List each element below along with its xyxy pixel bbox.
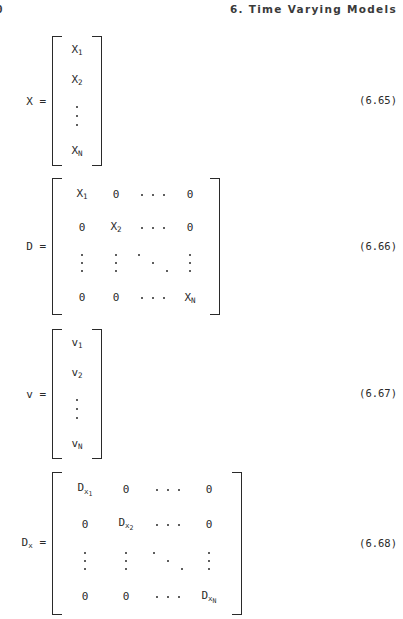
equation-label: X = xyxy=(0,95,52,108)
equation-label: D = xyxy=(0,240,52,253)
vertical-ellipsis-icon xyxy=(125,547,127,576)
vertical-ellipsis-icon xyxy=(115,249,117,278)
matrix-cell: 0 xyxy=(82,519,89,531)
matrix-cell: v1 xyxy=(71,337,82,350)
matrix-cell: XN xyxy=(71,145,82,158)
equation-number: (6.68) xyxy=(359,537,397,549)
horizontal-ellipsis-icon xyxy=(156,489,180,491)
matrix-grid: X1 0 0 0 X2 0 0 0 XN xyxy=(62,178,210,315)
matrix-cell: 0 xyxy=(206,484,213,496)
matrix-cell: 0 xyxy=(82,591,89,603)
bracket-right-icon xyxy=(92,329,102,459)
matrix-cell: XN xyxy=(184,292,195,305)
matrix-cell: 0 xyxy=(187,189,194,201)
horizontal-ellipsis-icon xyxy=(141,194,165,196)
equation-6-67: v = v1 v2 vN (6.67) xyxy=(0,329,403,459)
matrix-column-vector-v: v1 v2 vN xyxy=(52,329,102,459)
matrix-cell: 0 xyxy=(206,519,213,531)
horizontal-ellipsis-icon xyxy=(141,227,165,229)
vertical-ellipsis-icon xyxy=(189,249,191,278)
diagonal-ellipsis-icon xyxy=(136,249,170,278)
matrix-cell: vN xyxy=(71,438,82,451)
vertical-ellipsis-icon xyxy=(81,249,83,278)
bracket-left-icon xyxy=(52,329,62,459)
vertical-ellipsis-icon xyxy=(76,104,78,128)
bracket-left-icon xyxy=(52,36,62,166)
vertical-ellipsis-icon xyxy=(84,547,86,576)
matrix-grid: v1 v2 vN xyxy=(62,329,92,459)
matrix-cell: DxN xyxy=(201,590,216,605)
horizontal-ellipsis-icon xyxy=(141,297,165,299)
matrix-cell: 0 xyxy=(113,292,120,304)
matrix-grid: X1 X2 XN xyxy=(62,36,92,166)
equation-number: (6.66) xyxy=(359,240,397,252)
matrix-diagonal-d: X1 0 0 0 X2 0 0 0 XN xyxy=(52,178,220,315)
equation-number: (6.67) xyxy=(359,387,397,399)
equation-6-66: D = X1 0 0 0 X2 0 0 0 XN (6.66) xyxy=(0,178,403,315)
matrix-cell: 0 xyxy=(79,292,86,304)
matrix-cell: 0 xyxy=(123,591,130,603)
equation-6-65: X = X1 X2 XN (6.65) xyxy=(0,36,403,166)
horizontal-ellipsis-icon xyxy=(156,524,180,526)
matrix-cell: 0 xyxy=(123,484,130,496)
matrix-cell: X2 xyxy=(110,221,121,234)
matrix-cell: Dx2 xyxy=(118,517,133,532)
diagonal-ellipsis-icon xyxy=(151,547,185,576)
matrix-cell: X1 xyxy=(71,44,82,57)
matrix-cell: 0 xyxy=(187,222,194,234)
vertical-ellipsis-icon xyxy=(208,547,210,576)
chapter-title: 6. Time Varying Models xyxy=(230,3,397,15)
page-header: 0 6. Time Varying Models xyxy=(0,0,403,22)
matrix-cell: v2 xyxy=(71,367,82,380)
bracket-right-icon xyxy=(210,178,220,315)
matrix-diagonal-dx: Dx1 0 0 0 Dx2 0 0 0 DxN xyxy=(52,472,242,615)
bracket-left-icon xyxy=(52,472,62,615)
matrix-cell: X1 xyxy=(76,188,87,201)
bracket-left-icon xyxy=(52,178,62,315)
horizontal-ellipsis-icon xyxy=(156,596,180,598)
bracket-right-icon xyxy=(92,36,102,166)
matrix-grid: Dx1 0 0 0 Dx2 0 0 0 DxN xyxy=(62,472,232,615)
equation-label: Dx = xyxy=(0,536,52,550)
equation-6-68: Dx = Dx1 0 0 0 Dx2 0 0 0 DxN (6.68 xyxy=(0,472,403,615)
vertical-ellipsis-icon xyxy=(76,397,78,421)
matrix-cell: 0 xyxy=(113,189,120,201)
page-number: 0 xyxy=(0,3,4,16)
matrix-column-vector-x: X1 X2 XN xyxy=(52,36,102,166)
bracket-right-icon xyxy=(232,472,242,615)
equation-number: (6.65) xyxy=(359,94,397,106)
equation-label: v = xyxy=(0,388,52,401)
matrix-cell: X2 xyxy=(71,74,82,87)
matrix-cell: 0 xyxy=(79,222,86,234)
matrix-cell: Dx1 xyxy=(77,482,92,497)
